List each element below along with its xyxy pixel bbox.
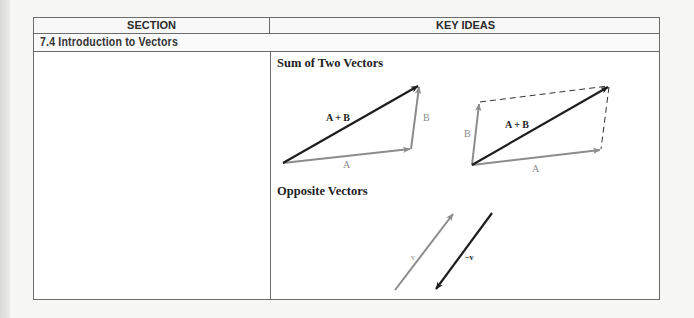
- dashed-side-right: [601, 87, 609, 149]
- label-a: A: [343, 159, 351, 170]
- label-b: B: [423, 112, 430, 123]
- label-a: A: [532, 163, 540, 174]
- label-neg-v: −v: [465, 253, 474, 262]
- vector-sum: [283, 86, 418, 163]
- vector-diagrams: A + B A B A + B B A v −v: [0, 0, 694, 318]
- triangle-rule-figure: A + B A B: [283, 86, 430, 170]
- vector-b: [411, 87, 419, 149]
- vector-b: [472, 104, 479, 165]
- label-b: B: [464, 128, 471, 139]
- label-v: v: [411, 253, 415, 262]
- parallelogram-rule-figure: A + B B A: [464, 86, 609, 174]
- vector-sum: [472, 87, 608, 165]
- dashed-side-top: [480, 86, 608, 102]
- opposite-vectors-figure: v −v: [395, 213, 492, 290]
- label-sum: A + B: [326, 112, 350, 123]
- label-sum: A + B: [505, 119, 529, 130]
